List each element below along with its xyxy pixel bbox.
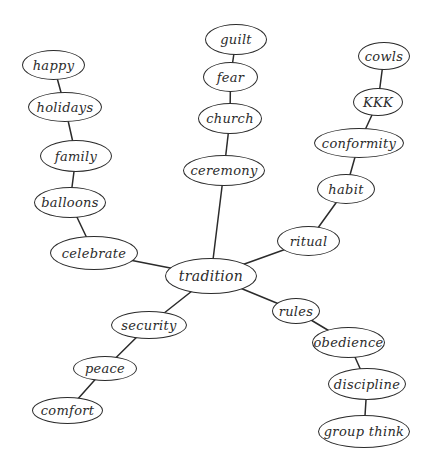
node-label: church bbox=[206, 111, 254, 126]
node-label: ritual bbox=[290, 234, 328, 249]
node-label: guilt bbox=[220, 32, 252, 47]
node-label: ceremony bbox=[190, 163, 257, 178]
node-conformity: conformity bbox=[314, 128, 404, 158]
node-obedience: obedience bbox=[312, 327, 385, 358]
node-label: peace bbox=[85, 361, 125, 376]
node-guilt: guilt bbox=[205, 24, 267, 55]
node-label: fear bbox=[217, 70, 245, 85]
node-label: happy bbox=[33, 58, 75, 73]
node-label: balloons bbox=[41, 195, 99, 210]
node-label: comfort bbox=[41, 403, 95, 418]
node-label: discipline bbox=[334, 377, 400, 392]
node-group-think: group think bbox=[318, 415, 410, 448]
node-label: KKK bbox=[363, 95, 393, 110]
node-family: family bbox=[40, 140, 112, 172]
node-habit: habit bbox=[317, 174, 375, 204]
node-label: security bbox=[121, 318, 176, 333]
node-ceremony: ceremony bbox=[183, 155, 265, 186]
node-label: celebrate bbox=[62, 246, 127, 261]
node-label: holidays bbox=[36, 100, 93, 115]
node-cowls: cowls bbox=[358, 42, 410, 70]
node-kkk: KKK bbox=[353, 88, 403, 116]
node-peace: peace bbox=[73, 356, 137, 381]
node-rules: rules bbox=[272, 298, 320, 324]
node-label: rules bbox=[279, 304, 314, 319]
node-label: tradition bbox=[179, 268, 243, 284]
node-happy: happy bbox=[22, 50, 85, 80]
mind-map-canvas: traditioncelebrateballoonsfamilyholidays… bbox=[0, 0, 437, 472]
node-holidays: holidays bbox=[28, 92, 102, 122]
node-comfort: comfort bbox=[32, 397, 103, 424]
node-ritual: ritual bbox=[277, 226, 340, 256]
node-label: cowls bbox=[365, 49, 404, 64]
node-label: conformity bbox=[322, 136, 396, 151]
node-label: obedience bbox=[313, 335, 383, 350]
node-discipline: discipline bbox=[328, 368, 406, 400]
node-security: security bbox=[111, 311, 187, 339]
node-church: church bbox=[198, 103, 262, 134]
node-label: family bbox=[55, 149, 97, 164]
node-balloons: balloons bbox=[34, 187, 106, 218]
node-label: habit bbox=[328, 182, 363, 197]
node-fear: fear bbox=[203, 62, 258, 92]
node-celebrate: celebrate bbox=[50, 236, 138, 270]
node-tradition: tradition bbox=[165, 258, 257, 294]
node-label: group think bbox=[324, 424, 405, 439]
